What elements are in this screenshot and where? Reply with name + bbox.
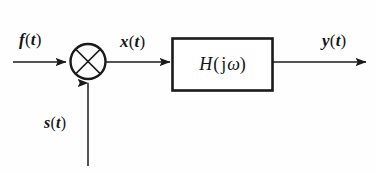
input-signal-label: f(t) [19, 30, 42, 50]
input-label-right-paren: ) [36, 30, 42, 49]
output-signal-label: y(t) [322, 31, 346, 51]
mixer-output-variable: x [120, 32, 129, 51]
mixer-output-label: x(t) [120, 32, 145, 52]
mixer-label-right-paren: ) [140, 32, 146, 51]
diagram-vector-layer [0, 0, 376, 173]
output-label-right-paren: ) [341, 31, 347, 50]
output-signal-variable: y [322, 31, 330, 50]
carrier-signal-label: s(t) [44, 114, 66, 132]
carrier-label-right-paren: ) [61, 114, 67, 131]
block-diagram-canvas: H(jω) f(t) x(t) y(t) s(t) [0, 0, 376, 173]
transfer-function-block [173, 39, 273, 91]
